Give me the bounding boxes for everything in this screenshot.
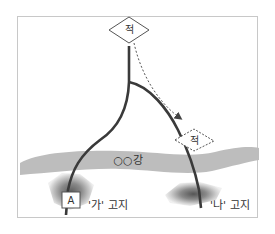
enemy-origin-marker: 적 xyxy=(109,17,149,43)
enemy-destination-marker: 적 xyxy=(175,129,214,151)
river-label: ○○강 xyxy=(113,154,142,167)
enemy-movement-arrow xyxy=(134,43,180,118)
enemy-destination-label: 적 xyxy=(190,135,199,146)
enemy-origin-label: 적 xyxy=(125,24,134,35)
unit-a-marker: A xyxy=(62,192,80,208)
unit-a-label: A xyxy=(68,195,75,206)
hill-ga-label: '가' 고지 xyxy=(88,199,128,212)
hill-na-label: '나' 고지 xyxy=(210,199,250,212)
tactical-map-diagram: 적 적 ○○강 A '가' 고지 '나' 고지 xyxy=(0,0,275,234)
